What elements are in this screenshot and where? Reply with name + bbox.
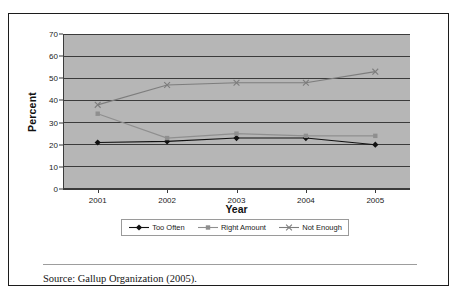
legend-item: Too Often	[128, 223, 185, 232]
data-point-marker	[95, 139, 101, 145]
legend-swatch-x-icon	[278, 223, 300, 232]
plot-area: 010203040506070 20012002200320042005	[63, 34, 410, 189]
chart-area: Percent 010203040506070 2001200220032004…	[9, 14, 450, 236]
legend-label: Not Enough	[302, 223, 342, 232]
y-tick-label: 30	[49, 118, 58, 127]
series-line	[98, 72, 376, 105]
data-point-marker	[206, 225, 210, 229]
legend-swatch-diamond-icon	[128, 223, 150, 232]
figure-frame: Percent 010203040506070 2001200220032004…	[8, 13, 449, 286]
legend-item: Right Amount	[197, 223, 266, 232]
y-tick-label: 20	[49, 140, 58, 149]
y-tick-label: 10	[49, 162, 58, 171]
legend-swatch-square-icon	[197, 223, 219, 232]
y-tick-label: 60	[49, 52, 58, 61]
data-point-marker	[95, 102, 101, 108]
y-tick-label: 40	[49, 96, 58, 105]
y-tick-label: 70	[49, 30, 58, 39]
data-point-marker	[136, 224, 142, 230]
source-divider	[43, 264, 417, 265]
series-plot	[63, 34, 410, 189]
legend-label: Right Amount	[221, 223, 266, 232]
legend-label: Too Often	[152, 223, 185, 232]
y-axis-title: Percent	[26, 77, 38, 147]
data-point-marker	[233, 135, 239, 141]
x-tick-mark	[167, 189, 168, 193]
x-axis-title: Year	[63, 203, 410, 215]
data-point-marker	[96, 112, 100, 116]
chart-legend: Too OftenRight AmountNot Enough	[121, 219, 349, 236]
x-tick-mark	[375, 189, 376, 193]
data-point-marker	[304, 134, 308, 138]
y-tick-label: 0	[54, 185, 58, 194]
x-tick-mark	[306, 189, 307, 193]
data-point-marker	[372, 142, 378, 148]
x-tick-mark	[237, 189, 238, 193]
y-tick-label: 50	[49, 74, 58, 83]
x-tick-mark	[98, 189, 99, 193]
data-point-marker	[165, 136, 169, 140]
data-point-marker	[373, 134, 377, 138]
legend-item: Not Enough	[278, 223, 342, 232]
data-point-marker	[234, 131, 238, 135]
source-note: Source: Gallup Organization (2005).	[43, 273, 197, 284]
